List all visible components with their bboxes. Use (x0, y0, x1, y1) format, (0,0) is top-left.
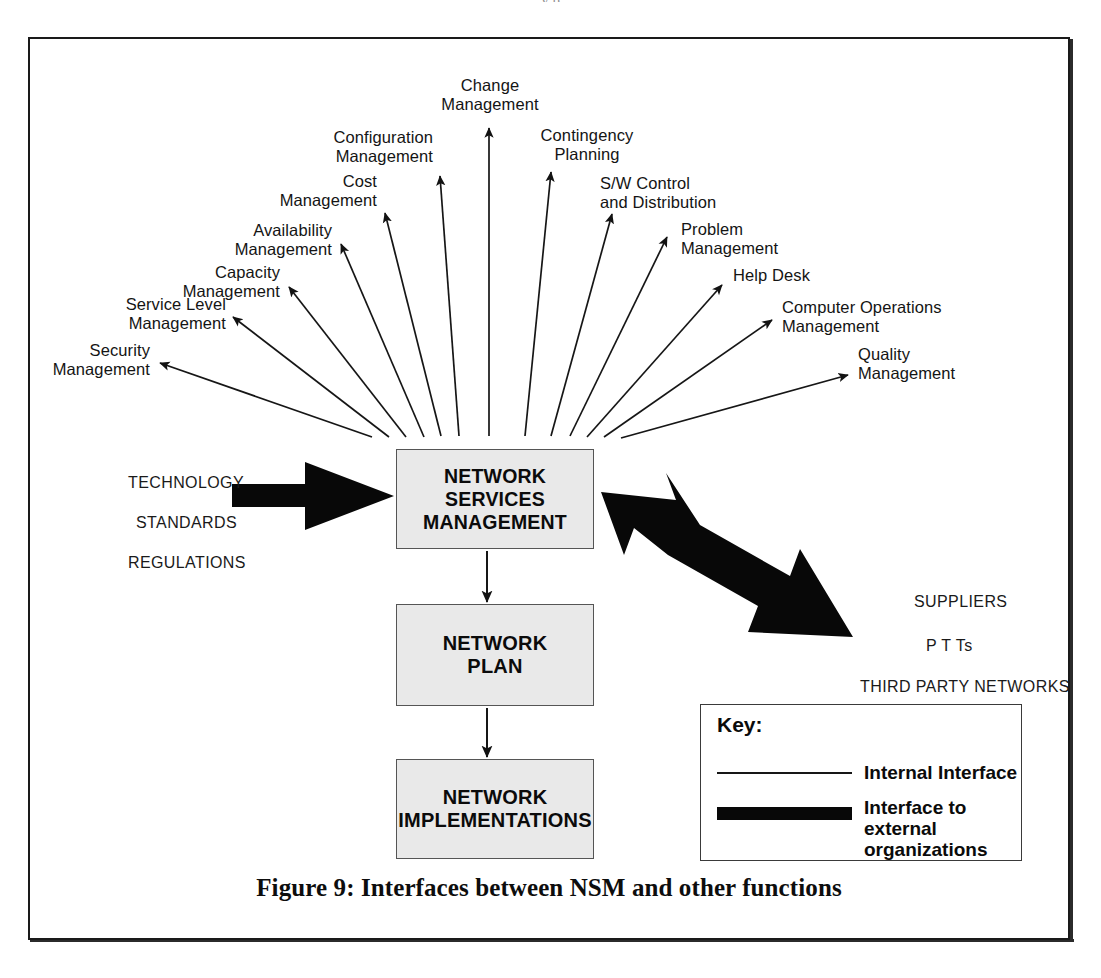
fan-label-contingency-planning: ContingencyPlanning (528, 126, 646, 164)
fan-label-problem-management: ProblemManagement (681, 220, 821, 258)
external-parties-double-arrow (601, 473, 853, 637)
spoke-problem-management (570, 237, 667, 436)
spoke-cost-management (385, 213, 441, 436)
key-title: Key: (717, 713, 763, 737)
fan-label-configuration-management: ConfigurationManagement (306, 128, 433, 166)
box-network-plan[interactable]: NETWORKPLAN (396, 604, 594, 706)
box-network-implementations[interactable]: NETWORKIMPLEMENTATIONS (396, 759, 594, 859)
spoke-contingency-planning (525, 172, 551, 436)
fan-label-sw-control-and-distribution: S/W Controland Distribution (600, 174, 750, 212)
key-external-interface-swatch (717, 807, 852, 820)
key-internal-interface-label: Internal Interface (864, 762, 1017, 783)
external-input-technology: TECHNOLOGY (128, 474, 244, 492)
fan-label-help-desk: Help Desk (733, 266, 853, 285)
spoke-quality-management (621, 375, 848, 438)
fan-label-quality-management: QualityManagement (858, 345, 1008, 383)
box-network-services-management-label: NETWORKSERVICESMANAGEMENT (423, 465, 567, 534)
spoke-service-level-management (233, 317, 389, 437)
figure-page: y p (0, 0, 1101, 978)
fan-label-security-management: SecurityManagement (30, 341, 150, 379)
external-party-third-party-networks: THIRD PARTY NETWORKS (860, 678, 1070, 696)
external-party-ptts: P T Ts (926, 637, 973, 655)
box-network-implementations-label: NETWORKIMPLEMENTATIONS (398, 786, 591, 832)
fan-label-capacity-management: CapacityManagement (145, 263, 280, 301)
fan-label-computer-operations-management: Computer OperationsManagement (782, 298, 967, 336)
key-legend-box: Key: Internal Interface Interface to ext… (700, 704, 1022, 861)
key-internal-interface-swatch (717, 772, 852, 774)
external-input-arrow (232, 462, 394, 530)
spoke-sw-control-and-distribution (551, 214, 612, 436)
spoke-configuration-management (440, 176, 459, 436)
fan-label-change-management: ChangeManagement (425, 76, 555, 114)
external-party-suppliers: SUPPLIERS (914, 593, 1007, 611)
fan-label-availability-management: AvailabilityManagement (196, 221, 332, 259)
box-network-plan-label: NETWORKPLAN (443, 632, 548, 678)
key-external-interface-label: Interface to external organizations (864, 797, 1014, 860)
external-input-regulations: REGULATIONS (128, 554, 246, 572)
external-input-standards: STANDARDS (136, 514, 237, 532)
figure-caption: Figure 9: Interfaces between NSM and oth… (28, 874, 1070, 902)
box-network-services-management[interactable]: NETWORKSERVICESMANAGEMENT (396, 449, 594, 549)
fan-label-cost-management: CostManagement (241, 172, 377, 210)
